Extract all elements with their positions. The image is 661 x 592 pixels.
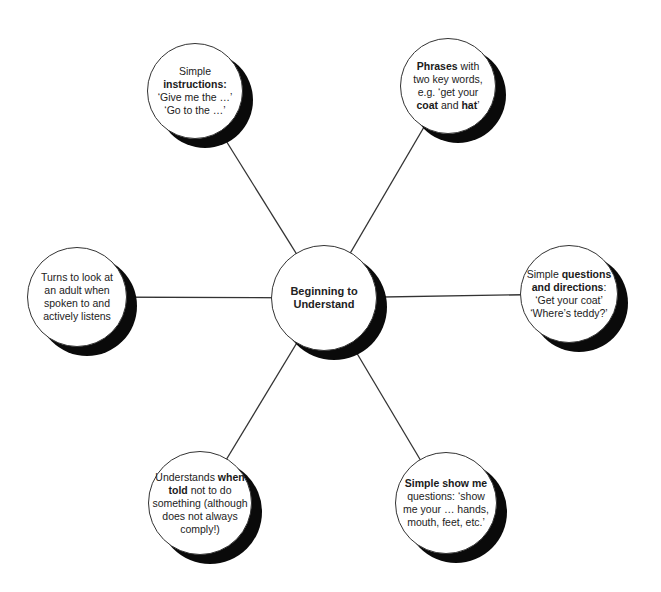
node-label: Phrases withtwo key words,e.g. ‘get your… <box>409 60 486 112</box>
label-line: told not to do <box>152 484 247 497</box>
label-line: something (although <box>152 497 247 510</box>
center-node: Beginning toUnderstand <box>271 245 377 351</box>
label-line: Beginning to <box>290 285 357 298</box>
text: actively listens <box>43 310 111 322</box>
text: an adult when <box>44 284 109 296</box>
node-circle: Simpleinstructions:‘Give me the …’‘Go to… <box>147 43 243 139</box>
text: Simple <box>179 65 211 77</box>
label-line: ‘Go to the …’ <box>158 104 233 117</box>
label-line: comply!) <box>152 523 247 536</box>
node-label: Simpleinstructions:‘Give me the …’‘Go to… <box>154 65 237 117</box>
node-circle: Simple questionsand directions:‘Get your… <box>520 245 618 343</box>
text: Simple <box>527 268 562 280</box>
label-line: Turns to look at <box>41 271 113 284</box>
text: ‘Give me the …’ <box>158 91 233 103</box>
text: spoken to and <box>44 297 110 309</box>
node-label: Simple questionsand directions:‘Get your… <box>523 268 616 320</box>
bold-text: told <box>168 484 187 496</box>
text: does not always <box>162 510 237 522</box>
label-line: ‘Get your coat’ <box>527 294 612 307</box>
label-line: two key words, <box>413 73 482 86</box>
bold-text: and directions <box>532 281 604 293</box>
label-line: does not always <box>152 510 247 523</box>
text: and <box>438 99 461 111</box>
node-simple-questions-directions: Simple questionsand directions:‘Get your… <box>520 245 618 343</box>
label-line: Phrases with <box>413 60 482 73</box>
text: with <box>458 60 480 72</box>
bold-text: Phrases <box>417 60 458 72</box>
node-circle: Beginning toUnderstand <box>271 245 377 351</box>
node-turns-to-look: Turns to look atan adult whenspoken to a… <box>27 247 127 347</box>
label-line: ‘Give me the …’ <box>158 91 233 104</box>
node-label: Understands whentold not to dosomething … <box>148 471 251 536</box>
text: e.g. ‘get your <box>418 86 479 98</box>
bold-text: coat <box>416 99 438 111</box>
node-label: Turns to look atan adult whenspoken to a… <box>37 271 117 323</box>
text: mouth, feet, etc.’ <box>407 516 485 528</box>
text: questions: ‘show <box>407 490 485 502</box>
node-circle: Phrases withtwo key words,e.g. ‘get your… <box>400 38 496 134</box>
bold-text: instructions: <box>163 78 227 90</box>
text: Turns to look at <box>41 271 113 283</box>
label-line: spoken to and <box>41 297 113 310</box>
label-line: actively listens <box>41 310 113 323</box>
bold-text: hat <box>461 99 477 111</box>
node-understands-when-told: Understands whentold not to dosomething … <box>148 451 252 555</box>
label-line: an adult when <box>41 284 113 297</box>
text: ‘Get your coat’ <box>535 294 603 306</box>
text: ‘Where’s teddy?’ <box>530 307 607 319</box>
label-line: instructions: <box>158 78 233 91</box>
text: me your … hands, <box>403 503 489 515</box>
label-line: Simple questions <box>527 268 612 281</box>
label-line: Simple <box>158 65 233 78</box>
label-line: coat and hat’ <box>413 99 482 112</box>
label-line: Understand <box>290 298 357 311</box>
text: not to do <box>188 484 232 496</box>
bold-text: Simple show me <box>405 477 487 489</box>
label-line: Simple show me <box>403 477 489 490</box>
node-label: Simple show mequestions: ‘showme your … … <box>399 477 493 529</box>
bold-text: questions <box>562 268 612 280</box>
label-line: me your … hands, <box>403 503 489 516</box>
text: : <box>603 281 606 293</box>
node-circle: Turns to look atan adult whenspoken to a… <box>27 247 127 347</box>
text: ‘Go to the …’ <box>164 104 225 116</box>
text: two key words, <box>413 73 482 85</box>
bold-text: when <box>218 471 245 483</box>
label-line: questions: ‘show <box>403 490 489 503</box>
label-line: e.g. ‘get your <box>413 86 482 99</box>
node-simple-show-me: Simple show mequestions: ‘showme your … … <box>395 452 497 554</box>
text: Understands <box>155 471 217 483</box>
label-line: Understands when <box>152 471 247 484</box>
center-label: Beginning toUnderstand <box>286 285 361 311</box>
text: something (although <box>152 497 247 509</box>
node-phrases-two-key-words: Phrases withtwo key words,e.g. ‘get your… <box>400 38 496 134</box>
node-circle: Simple show mequestions: ‘showme your … … <box>395 452 497 554</box>
node-simple-instructions: Simpleinstructions:‘Give me the …’‘Go to… <box>147 43 243 139</box>
text: ’ <box>477 99 479 111</box>
text: comply!) <box>180 523 220 535</box>
node-circle: Understands whentold not to dosomething … <box>148 451 252 555</box>
label-line: and directions: <box>527 281 612 294</box>
label-line: ‘Where’s teddy?’ <box>527 307 612 320</box>
label-line: mouth, feet, etc.’ <box>403 516 489 529</box>
